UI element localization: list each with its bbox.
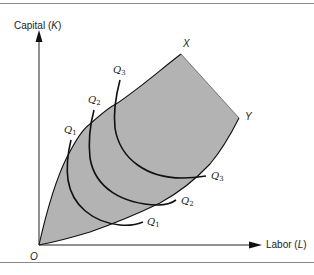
- x-axis-label-text: Labor: [266, 239, 292, 250]
- q3-letter: Q: [211, 170, 219, 181]
- isoquant-q3-label-top: Q3: [113, 65, 126, 77]
- q1-letter: Q: [64, 124, 72, 135]
- q1-subscript: 1: [72, 129, 76, 137]
- y-axis-arrowhead: [36, 30, 43, 42]
- q1-letter: Q: [147, 216, 155, 227]
- q2-letter: Q: [181, 195, 189, 206]
- q2-letter: Q: [88, 94, 96, 105]
- q2-subscript: 2: [189, 200, 193, 208]
- diagram-canvas: [0, 0, 314, 275]
- q3-subscript: 3: [121, 69, 125, 77]
- isoquant-q1-label-end: Q1: [147, 217, 160, 229]
- x-axis-arrowhead: [249, 242, 262, 249]
- x-axis-symbol: L: [298, 239, 304, 250]
- q2-subscript: 2: [96, 99, 100, 107]
- q3-subscript: 3: [219, 175, 223, 183]
- isoquant-q2-label-top: Q2: [88, 95, 101, 107]
- point-x-label: X: [183, 39, 190, 49]
- isoquant-q3-label-end: Q3: [211, 171, 224, 183]
- production-isoquant-diagram: Capital (K) Labor (L) O X Y Q1 Q2 Q3 Q1 …: [0, 0, 314, 275]
- y-axis-label: Capital (K): [14, 21, 61, 31]
- q1-subscript: 1: [155, 221, 159, 229]
- isoquant-q1-label-top: Q1: [64, 125, 77, 137]
- y-axis-symbol: K: [51, 20, 58, 31]
- q3-letter: Q: [113, 64, 121, 75]
- origin-label: O: [30, 252, 38, 262]
- point-y-label: Y: [245, 112, 252, 122]
- x-axis-label: Labor (L): [266, 240, 307, 250]
- isoquant-q2-label-end: Q2: [181, 196, 194, 208]
- y-axis-label-text: Capital: [14, 20, 45, 31]
